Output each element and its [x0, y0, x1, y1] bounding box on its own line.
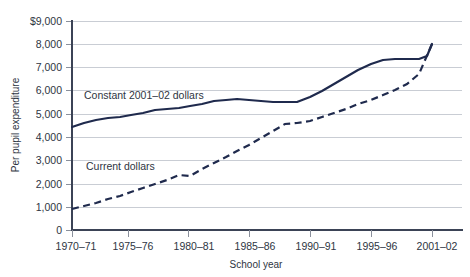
x-tick-label: 1980–81: [174, 240, 215, 252]
annotation-constant-dollars: Constant 2001–02 dollars: [84, 89, 204, 101]
x-tick-label: 1975–76: [113, 240, 154, 252]
annotation-current-dollars: Current dollars: [86, 160, 155, 172]
y-tick-label: 1,000: [36, 201, 62, 213]
y-tick-label: 6,000: [36, 84, 62, 96]
y-tick-label: 2,000: [36, 178, 62, 190]
chart-container: $9,000 8,000 7,000 6,000 5,000 4,000 3,0…: [0, 0, 470, 277]
y-tick-label: 5,000: [36, 108, 62, 120]
chart-background: [0, 0, 470, 277]
x-axis-title: School year: [230, 259, 283, 270]
y-tick-label: 4,000: [36, 131, 62, 143]
x-tick-label: 1970–71: [56, 240, 97, 252]
x-tick-label: 1995–96: [357, 240, 398, 252]
x-tick-label: 1985–86: [235, 240, 276, 252]
x-tick-label: 2001–02: [417, 240, 458, 252]
x-tick-label: 1990–91: [296, 240, 337, 252]
line-chart: $9,000 8,000 7,000 6,000 5,000 4,000 3,0…: [0, 0, 470, 277]
y-tick-label: 7,000: [36, 61, 62, 73]
y-tick-label: 0: [56, 224, 62, 236]
y-axis-title: Per pupil expenditure: [10, 77, 21, 172]
y-tick-label: 8,000: [36, 38, 62, 50]
y-tick-label: 3,000: [36, 154, 62, 166]
x-axis-labels: 1970–71 1975–76 1980–81 1985–86 1990–91 …: [56, 240, 458, 252]
y-tick-label: $9,000: [30, 15, 62, 27]
